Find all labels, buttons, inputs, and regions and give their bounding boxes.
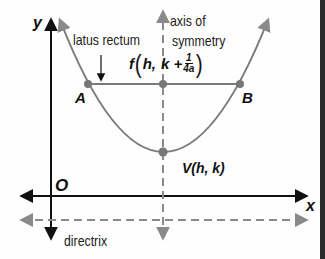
latus-rectum-label: latus rectum (73, 31, 140, 48)
vertex-dot (159, 148, 168, 157)
focus-h: h, (143, 55, 156, 72)
x-axis-label: x (306, 197, 315, 215)
focus-open-paren: ( (135, 54, 142, 74)
vertex-label: V(h, k) (182, 160, 225, 176)
diagram-graphics (0, 0, 325, 259)
right-border (320, 0, 325, 259)
point-b-label: B (242, 89, 253, 106)
parabola-diagram: y x O latus rectum axis of symmetry f ( … (0, 0, 325, 259)
focus-dot (159, 80, 167, 88)
directrix-label: directrix (64, 232, 107, 249)
point-a-dot (84, 80, 92, 88)
origin-label: O (55, 176, 68, 196)
axis-of-symmetry-label-line2: symmetry (172, 32, 225, 49)
focus-fraction: 1 4a (183, 53, 194, 74)
focus-k: k + (161, 55, 182, 72)
focus-prefix: f (129, 55, 134, 72)
focus-close-paren: ) (196, 54, 203, 74)
point-b-dot (236, 80, 244, 88)
axis-of-symmetry-label-line1: axis of (170, 12, 206, 29)
y-axis-label: y (33, 14, 42, 32)
point-a-label: A (75, 89, 86, 106)
fraction-denominator: 4a (183, 64, 194, 74)
focus-label: f ( h, k + 1 4a ) (129, 53, 204, 74)
